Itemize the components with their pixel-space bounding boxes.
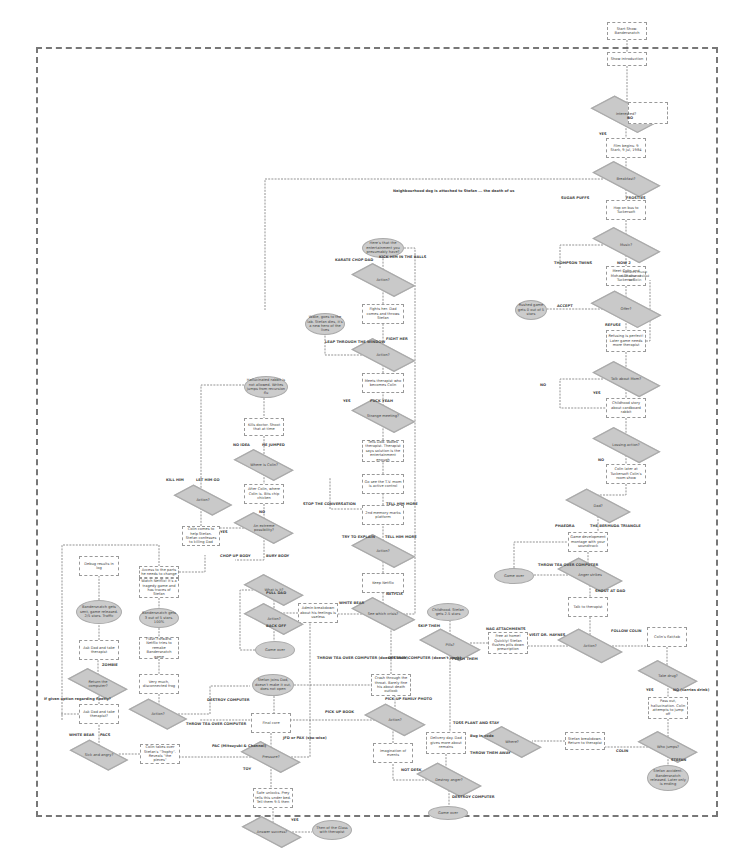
process-node: Colin takes over Stefan's "Trophy". Reve…	[140, 744, 180, 764]
edge-label: PAC (Mitsuyuki & Channel)	[212, 744, 266, 748]
edge-label: DESTROY COMPUTER (doesn't work)	[388, 656, 461, 660]
node-text: Watch Netflix! It's a tragedy game and h…	[141, 579, 177, 597]
edge-label: ACCEPT	[557, 304, 573, 308]
process-node: Access to the parts he needs to change	[139, 566, 179, 578]
edge-label: FUCK YEAH	[370, 399, 393, 403]
process-node: Ask Dad and take therapist	[79, 640, 119, 660]
edge-label: SKIP THEM	[418, 624, 440, 628]
process-node: Kills doctor. Shoot that at time	[244, 418, 284, 436]
node-text: 2nd memory marks platform	[364, 511, 402, 520]
node-text: Here's that the entertainment you presum…	[364, 241, 402, 254]
edge-label: HE JUMPED	[262, 443, 285, 447]
edge-label: NO IDEA	[233, 443, 250, 447]
edge-label: TOSS PLANT AND STAY	[453, 721, 499, 725]
node-text: Colin's flat/tab	[654, 635, 680, 639]
decision-node: Answer success?	[252, 823, 292, 841]
edge-label: NOT DESK	[401, 768, 422, 772]
node-text: Game over	[504, 574, 524, 578]
edge-label: NO (carries drink)	[673, 688, 709, 692]
edge-label: SHOUT AT DAD	[595, 589, 625, 593]
process-node: Pass out, hallucination. Colin attempts …	[648, 697, 688, 719]
node-text: Rushed game gets 0 out of 5 stars	[517, 303, 545, 316]
node-text: Bandersnatch gets sent, game released. 2…	[78, 605, 120, 618]
node-text: Start Show: Bandersnatch	[609, 27, 645, 36]
decision-node: Talk about Mom?	[603, 369, 649, 389]
node-text: Action?	[583, 644, 596, 648]
node-text: Lossing action?	[612, 443, 640, 447]
edge-label: KICK HIM IN THE BALLS	[379, 255, 426, 259]
process-node: Fights her. Dad comes and throws Stefan	[362, 304, 404, 324]
process-node: After Colin, where Colin is. Bits chip c…	[244, 484, 284, 504]
process-node: Ask Dad and take therapist?	[79, 704, 119, 724]
node-text: Destroy anger?	[435, 778, 462, 782]
node-text: Imagination of events	[375, 749, 411, 758]
decision-node: Take drug?	[648, 667, 688, 685]
edge-label: VISIT DR. HAYNES	[529, 633, 565, 637]
edge-label: THROW THEM AWAY	[470, 751, 511, 755]
edge-label: LEAP THROUGH THE WINDOW	[325, 340, 385, 344]
decision-node: Pressure?	[251, 748, 291, 766]
process-node: Tells Dad. Wakes therapist. Therapist sa…	[362, 440, 404, 462]
node-text: Colin later at Tuckersoft Colin's room s…	[608, 467, 644, 480]
node-text: Flash Forward. Netflix tries to remake B…	[141, 637, 177, 659]
edge-label: PICK UP BOOK	[325, 710, 354, 714]
node-text: Childhood story about cardboard rabbit	[608, 401, 644, 414]
node-text: Interested?	[616, 112, 636, 116]
decision-node: Action?	[139, 705, 177, 723]
node-text: Hop on bus to Tuckersoft	[608, 206, 644, 215]
node-text: Talk to therapist	[574, 605, 603, 609]
process-node: Crash through the throat. Barely fine hi…	[371, 674, 411, 696]
node-text: Music?	[620, 243, 632, 247]
edge-label: YES	[599, 132, 607, 136]
edge-label: WHITE BEAR	[69, 733, 94, 737]
decision-node: Strange meeting?	[362, 406, 404, 426]
edge-label: NO	[259, 510, 265, 514]
edge-label: YES	[291, 818, 299, 822]
edge-label: PHAEDRA	[555, 524, 574, 528]
edge-label: DESTROY COMPUTER	[452, 795, 495, 799]
node-text: Kills doctor. Shoot that at time	[246, 423, 282, 432]
process-node: Flash Forward. Netflix tries to remake B…	[139, 637, 179, 659]
decision-node: See which crisis?	[362, 604, 404, 624]
decision-node: Destroy anger?	[427, 770, 471, 790]
edge-label: YES	[593, 391, 601, 395]
decision-node: Where?	[492, 733, 532, 751]
edge-label: FIGHT HER	[386, 337, 408, 341]
edge-label: SUGAR PUFFS	[561, 196, 589, 200]
node-text: Go see the T.V. mom is active control	[364, 480, 402, 489]
node-text: Game over	[265, 648, 285, 652]
edge-label: If given option regarding fleetly?	[44, 697, 111, 701]
node-text: Access to the parts he needs to change	[141, 568, 177, 577]
process-node: Imagination of events	[373, 743, 413, 763]
edge-label: BURY BODY	[266, 554, 289, 558]
node-text: Colin comes to help Stefan. Stefan confe…	[184, 527, 218, 545]
edge-label: NO	[598, 458, 604, 462]
edge-label: YES	[646, 688, 654, 692]
node-text: Reflects music deal when asked to Colin	[621, 270, 650, 282]
node-text: Then of the Glass with therapist	[314, 826, 350, 835]
node-text: Anger strikes	[578, 573, 602, 577]
node-text: Sick and angry?	[85, 753, 114, 757]
edge-label: FOLLOW COLIN	[611, 629, 642, 633]
edge-label: TRY TO EXPLAIN	[342, 535, 375, 539]
process-node: Colin comes to help Stefan. Stefan confe…	[182, 526, 220, 546]
process-node: Very much, disconnected frog	[139, 674, 179, 694]
terminal-node: Game over	[428, 806, 468, 820]
process-node: Refusing is perfect! Later game needs mo…	[606, 330, 646, 352]
process-node: Colin later at Tuckersoft Colin's room s…	[606, 464, 646, 484]
decision-node: Offer?	[603, 298, 649, 320]
edge-label: NETFLIX	[386, 592, 403, 596]
process-node: Talk to therapist	[568, 597, 608, 617]
edge-label: NO	[540, 383, 546, 387]
process-node: Childhood story about cardboard rabbit	[606, 398, 646, 418]
decision-node: Pills?	[430, 635, 470, 655]
node-text: Action?	[267, 617, 280, 621]
node-text: Film begins: 9 Stark, 9 Jul, 1984	[608, 144, 644, 153]
decision-node: Return the computer?	[78, 675, 118, 693]
process-node: Admin breakdown about his feelings is us…	[298, 603, 338, 623]
decision-node: Action?	[362, 541, 404, 561]
terminal-node: Rushed game gets 0 out of 5 stars	[515, 300, 547, 320]
node-text: Delivery day. Dad gives more about remai…	[428, 736, 464, 749]
node-text: Safe unlocks. Prey tells this under bed.…	[255, 791, 291, 804]
decision-node: What is it?	[254, 581, 294, 599]
